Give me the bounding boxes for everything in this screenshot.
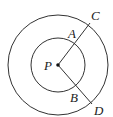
label-a: A	[67, 26, 76, 41]
center-point	[56, 63, 60, 67]
label-b: B	[70, 90, 78, 105]
label-c: C	[91, 8, 100, 23]
concentric-circles-diagram: P A B C D	[0, 0, 113, 117]
label-p: P	[43, 58, 52, 73]
diagram-canvas: P A B C D	[0, 0, 113, 117]
label-d: D	[93, 103, 104, 117]
